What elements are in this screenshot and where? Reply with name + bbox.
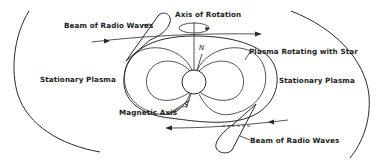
label-magnetic-axis: Magnetic Axis	[119, 108, 177, 117]
beam-cone-bottom	[216, 104, 256, 153]
label-stationary-left: Stationary Plasma	[40, 75, 116, 84]
line-of-sight-top	[92, 34, 258, 42]
arrow-right-icon	[255, 32, 262, 37]
north-magnetic-line	[197, 54, 202, 70]
label-south-pole: S	[184, 101, 189, 109]
arrow-mid-icon	[104, 39, 110, 44]
label-plasma-rotating: Plasma Rotating with Star	[249, 47, 358, 56]
label-north-pole: N	[199, 44, 205, 52]
label-beam-bottom: Beam of Radio Waves	[250, 136, 339, 145]
beam-bottom-leader	[240, 136, 250, 140]
arrow-left-small-icon	[268, 120, 274, 125]
label-beam-top: Beam of Radio Waves	[64, 21, 153, 30]
label-axis-of-rotation: Axis of Rotation	[175, 10, 241, 19]
arrow-left-icon	[165, 126, 172, 131]
pulsar-diagram: Beam of Radio Waves Axis of Rotation Pla…	[0, 0, 378, 164]
field-line-left-inner	[146, 61, 190, 100]
label-stationary-right: Stationary Plasma	[279, 76, 355, 85]
neutron-star	[182, 70, 206, 94]
